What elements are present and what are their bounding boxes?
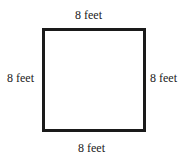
top-side-label: 8 feet (75, 8, 102, 22)
bottom-side-label: 8 feet (78, 141, 105, 155)
right-side-label: 8 feet (150, 71, 177, 85)
square-diagram: 8 feet 8 feet 8 feet 8 feet (0, 0, 186, 159)
square-shape (42, 28, 146, 132)
left-side-label: 8 feet (7, 71, 34, 85)
